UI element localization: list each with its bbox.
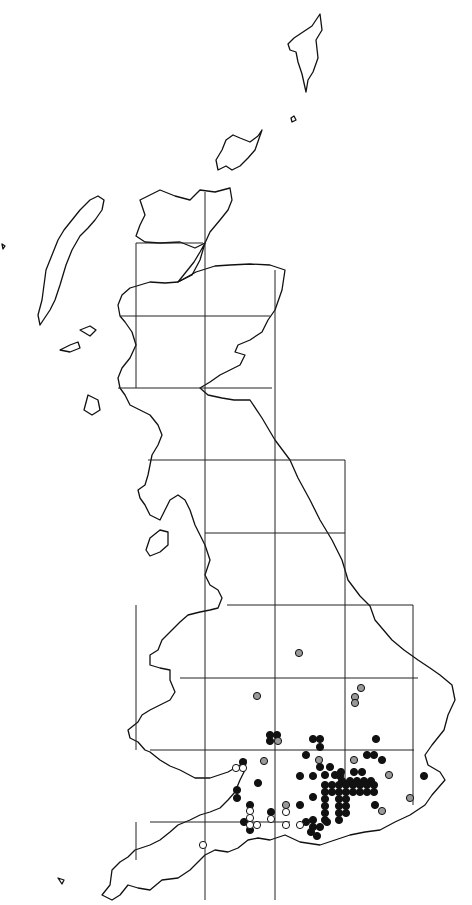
record-dot-historic <box>282 821 289 828</box>
record-dot-older <box>295 649 302 656</box>
record-dot-recent <box>337 768 344 775</box>
record-dot-historic <box>232 764 239 771</box>
record-dot-recent <box>309 772 316 779</box>
record-dot-recent <box>356 788 363 795</box>
record-dot-older <box>406 794 413 801</box>
coastline-path <box>80 326 96 336</box>
coastline-path <box>136 188 232 248</box>
record-dot-recent <box>342 781 349 788</box>
record-dot-historic <box>267 815 274 822</box>
record-dot-recent <box>342 795 349 802</box>
record-dot-recent <box>302 751 309 758</box>
coastline-path <box>58 878 64 884</box>
record-dot-recent <box>356 781 363 788</box>
record-dot-older <box>260 757 267 764</box>
record-dot-older <box>378 807 385 814</box>
record-dot-older <box>315 756 322 763</box>
record-dot-recent <box>321 802 328 809</box>
record-dot-recent <box>363 781 370 788</box>
coastline-outline <box>2 14 455 900</box>
record-dot-recent <box>342 802 349 809</box>
record-dot-historic <box>246 821 253 828</box>
record-dot-historic <box>282 808 289 815</box>
record-dot-recent <box>335 795 342 802</box>
record-dot-recent <box>266 737 273 744</box>
record-dot-recent <box>309 816 316 823</box>
record-dot-recent <box>316 763 323 770</box>
record-dot-older <box>351 699 358 706</box>
record-dot-historic <box>296 821 303 828</box>
record-dot-recent <box>335 802 342 809</box>
coastline-path <box>288 14 322 92</box>
record-dot-recent <box>420 772 427 779</box>
record-dot-recent <box>370 788 377 795</box>
map-canvas <box>0 0 472 905</box>
record-dot-recent <box>296 801 303 808</box>
record-dot-recent <box>316 823 323 830</box>
record-dot-older <box>282 801 289 808</box>
coastline-path <box>102 264 455 900</box>
record-dot-recent <box>313 832 320 839</box>
record-dot-recent <box>378 756 385 763</box>
record-dot-recent <box>254 779 261 786</box>
coastline-path <box>60 342 80 352</box>
record-dot-older <box>350 756 357 763</box>
record-dot-recent <box>316 743 323 750</box>
record-dot-older <box>253 692 260 699</box>
record-dot-recent <box>370 781 377 788</box>
record-dot-recent <box>323 818 330 825</box>
record-dot-historic <box>246 807 253 814</box>
record-dot-recent <box>350 768 357 775</box>
record-dot-recent <box>309 793 316 800</box>
coastline-path <box>146 530 168 556</box>
record-dot-recent <box>233 794 240 801</box>
record-dot-recent <box>371 801 378 808</box>
record-dot-older <box>274 737 281 744</box>
record-dot-recent <box>349 788 356 795</box>
record-dot-recent <box>370 751 377 758</box>
record-dot-recent <box>328 788 335 795</box>
record-dot-older <box>385 771 392 778</box>
record-dot-recent <box>326 763 333 770</box>
coastline-path <box>2 244 5 249</box>
coastline-path <box>216 130 262 170</box>
record-dot-recent <box>335 781 342 788</box>
record-dot-recent <box>363 751 370 758</box>
record-dot-recent <box>363 788 370 795</box>
record-dot-recent <box>316 735 323 742</box>
record-dot-recent <box>328 781 335 788</box>
coastline-path <box>178 243 205 282</box>
record-dot-recent <box>349 781 356 788</box>
record-dot-recent <box>342 788 349 795</box>
distribution-map <box>0 0 472 905</box>
record-dot-recent <box>335 788 342 795</box>
record-dot-recent <box>321 809 328 816</box>
record-dot-recent <box>309 735 316 742</box>
record-dot-older <box>357 684 364 691</box>
coastline-path <box>291 116 296 122</box>
record-dot-recent <box>372 735 379 742</box>
record-dot-recent <box>321 771 328 778</box>
record-dot-recent <box>321 788 328 795</box>
record-dot-historic <box>199 841 206 848</box>
record-dot-recent <box>335 816 342 823</box>
record-dot-recent <box>267 808 274 815</box>
record-dot-historic <box>253 821 260 828</box>
record-dot-recent <box>321 795 328 802</box>
coastline-path <box>38 196 104 325</box>
record-dot-historic <box>239 764 246 771</box>
record-dots <box>199 649 427 848</box>
record-dot-historic <box>246 814 253 821</box>
record-dot-recent <box>358 768 365 775</box>
record-dot-recent <box>321 781 328 788</box>
record-dot-recent <box>342 809 349 816</box>
record-dot-recent <box>296 772 303 779</box>
coastline-path <box>84 395 100 415</box>
record-dot-recent <box>335 809 342 816</box>
record-dot-recent <box>233 786 240 793</box>
